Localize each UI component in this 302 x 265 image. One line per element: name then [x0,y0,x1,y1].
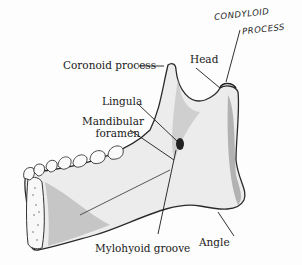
mandible-diagram: Coronoid process Head Lingula Mandibular… [0,0,302,265]
label-mylohyoid-groove: Mylohyoid groove [95,243,190,255]
mandible-illustration [0,0,302,265]
label-head: Head [190,54,218,66]
label-angle: Angle [199,237,230,249]
label-mandibular-foramen: Mandibular foramen [82,116,140,139]
label-coronoid-process: Coronoid process [63,60,156,72]
mandibular-foramen-mark [176,138,184,150]
label-lingula: Lingula [102,96,142,108]
label-mandibular-foramen-line1: Mandibular [82,116,140,128]
label-mandibular-foramen-line2: foramen [82,128,140,140]
